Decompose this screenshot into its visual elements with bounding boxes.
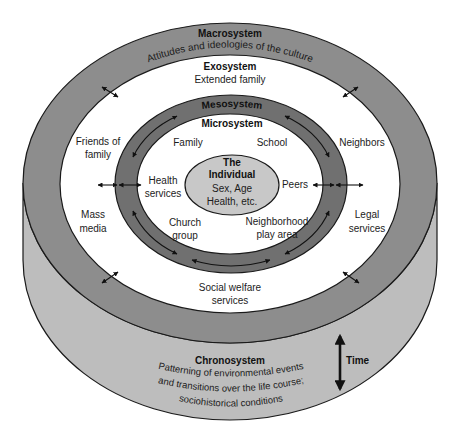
exosystem-item-neighbors: Neighbors bbox=[339, 137, 385, 148]
exosystem-title: Exosystem bbox=[204, 61, 257, 72]
microsystem-item-peers: Peers bbox=[282, 179, 308, 190]
microsystem-item-family: Family bbox=[173, 137, 202, 148]
microsystem-item-church-group-line1: Church bbox=[169, 217, 201, 228]
chronosystem-title: Chronosystem bbox=[195, 355, 265, 366]
exosystem-item-extended-family: Extended family bbox=[194, 74, 265, 85]
time-label: Time bbox=[346, 355, 370, 366]
individual-attributes-line1: Sex, Age bbox=[212, 183, 252, 194]
microsystem-item-neighborhood-line1: Neighborhood bbox=[246, 216, 309, 227]
microsystem-item-school: School bbox=[257, 137, 288, 148]
exosystem-item-social-welfare-line1: Social welfare bbox=[199, 282, 262, 293]
individual-title-line1: The bbox=[223, 157, 241, 168]
microsystem-title: Microsystem bbox=[201, 118, 262, 129]
microsystem-item-church-group-line2: group bbox=[172, 230, 198, 241]
exosystem-item-social-welfare-line2: services bbox=[212, 295, 249, 306]
microsystem-item-health-services-line1: Health bbox=[149, 175, 178, 186]
microsystem-item-neighborhood-line2: play area bbox=[256, 229, 298, 240]
exosystem-item-mass-media-line1: Mass bbox=[81, 209, 105, 220]
exosystem-item-mass-media-line2: media bbox=[79, 223, 107, 234]
exosystem-item-friends-of-family-line1: Friends of bbox=[76, 136, 121, 147]
exosystem-item-legal-services-line1: Legal bbox=[355, 209, 379, 220]
ecological-systems-diagram: Macrosystem Attitudes and ideologies of … bbox=[0, 0, 459, 438]
microsystem-item-health-services-line2: services bbox=[145, 188, 182, 199]
macrosystem-title: Macrosystem bbox=[198, 28, 262, 39]
individual-attributes-line2: Health, etc. bbox=[207, 196, 258, 207]
exosystem-item-friends-of-family-line2: family bbox=[85, 149, 111, 160]
exosystem-item-legal-services-line2: services bbox=[349, 223, 386, 234]
individual-title-line2: Individual bbox=[209, 169, 256, 180]
